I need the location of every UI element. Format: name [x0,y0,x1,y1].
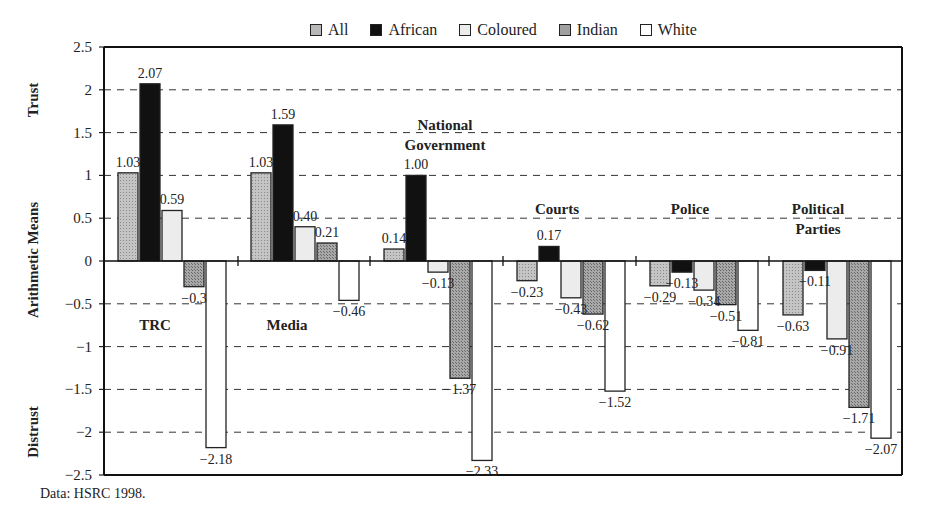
y-tick-label: 1.5 [73,125,92,141]
value-label: −0.51 [710,309,742,324]
bar-white [339,261,359,300]
category-label: Media [267,317,308,333]
bar-african [805,261,825,270]
bar-african [539,246,559,261]
bar-indian [849,261,869,407]
category-label: Parties [796,221,841,237]
value-label: −0.23 [511,285,543,300]
bar-coloured [428,261,448,272]
value-label: −1.37 [444,382,476,397]
value-label: −0.11 [799,274,831,289]
y-axis-ticks: 2.521.510.50−0.5−1−1.5−2−2.5 [65,39,92,483]
bar-all [384,249,404,261]
category-label: Police [671,201,710,217]
bar-coloured [827,261,847,339]
bar-african [406,175,426,261]
bar-coloured [561,261,581,298]
category-label: National [417,117,472,133]
value-label: −0.13 [422,276,454,291]
bar-indian [184,261,204,287]
bar-african [140,84,160,261]
value-label: −0.62 [577,318,609,333]
value-label: 0.59 [160,192,185,207]
bar-african [672,261,692,272]
bar-all [118,173,138,261]
y-tick-label: −0.5 [65,296,92,312]
value-label: −2.33 [466,464,498,479]
source-note: Data: HSRC 1998. [40,486,145,502]
bars [118,84,891,461]
category-label: Government [405,137,486,153]
value-label: 1.03 [249,155,274,170]
y-tick-label: −1.5 [65,381,92,397]
y-title-means: Arithmetic Means [25,202,41,318]
bar-white [206,261,226,448]
bar-coloured [162,210,182,261]
bar-white [472,261,492,460]
bar-coloured [295,227,315,261]
value-label: −0.91 [821,343,853,358]
category-label: TRC [139,317,171,333]
bar-all [517,261,537,281]
value-label: 0.40 [293,209,318,224]
value-label: −0.34 [688,294,720,309]
value-label: −0.43 [555,302,587,317]
value-labels: 1.031.030.14−0.23−0.29−0.632.071.591.000… [116,66,897,480]
bar-chart: 2.521.510.50−0.5−1−1.5−2−2.5 1.031.030.1… [0,0,948,516]
value-label: −1.52 [599,395,631,410]
y-tick-label: −1 [76,339,92,355]
value-label: −0.81 [732,334,764,349]
y-title-distrust: Distrust [25,406,41,458]
category-label: Courts [535,201,579,217]
value-label: 1.00 [404,157,429,172]
y-tick-label: 0 [85,253,93,269]
value-label: −0.13 [666,276,698,291]
value-label: 0.21 [315,225,340,240]
bar-indian [317,243,337,261]
bar-all [251,173,271,261]
y-tick-label: 1 [85,167,93,183]
value-label: 1.59 [271,107,296,122]
value-label: −0.3 [181,291,206,306]
value-label: −2.18 [200,452,232,467]
value-label: −2.07 [865,442,897,457]
y-tick-label: −2.5 [65,467,92,483]
value-label: 1.03 [116,155,141,170]
value-label: 0.17 [537,228,562,243]
y-axis-title: TrustArithmetic MeansDistrust [25,83,41,458]
y-tick-label: −2 [76,424,92,440]
category-label: Political [792,201,845,217]
value-label: −0.29 [644,290,676,305]
y-tick-label: 0.5 [73,210,92,226]
value-label: −0.46 [333,304,365,319]
bar-african [273,125,293,261]
y-title-trust: Trust [25,83,41,118]
value-label: 2.07 [138,66,163,81]
value-label: −0.63 [777,319,809,334]
value-label: 0.14 [382,231,407,246]
y-tick-label: 2 [85,82,93,98]
y-tick-label: 2.5 [73,39,92,55]
value-label: −1.71 [843,411,875,426]
